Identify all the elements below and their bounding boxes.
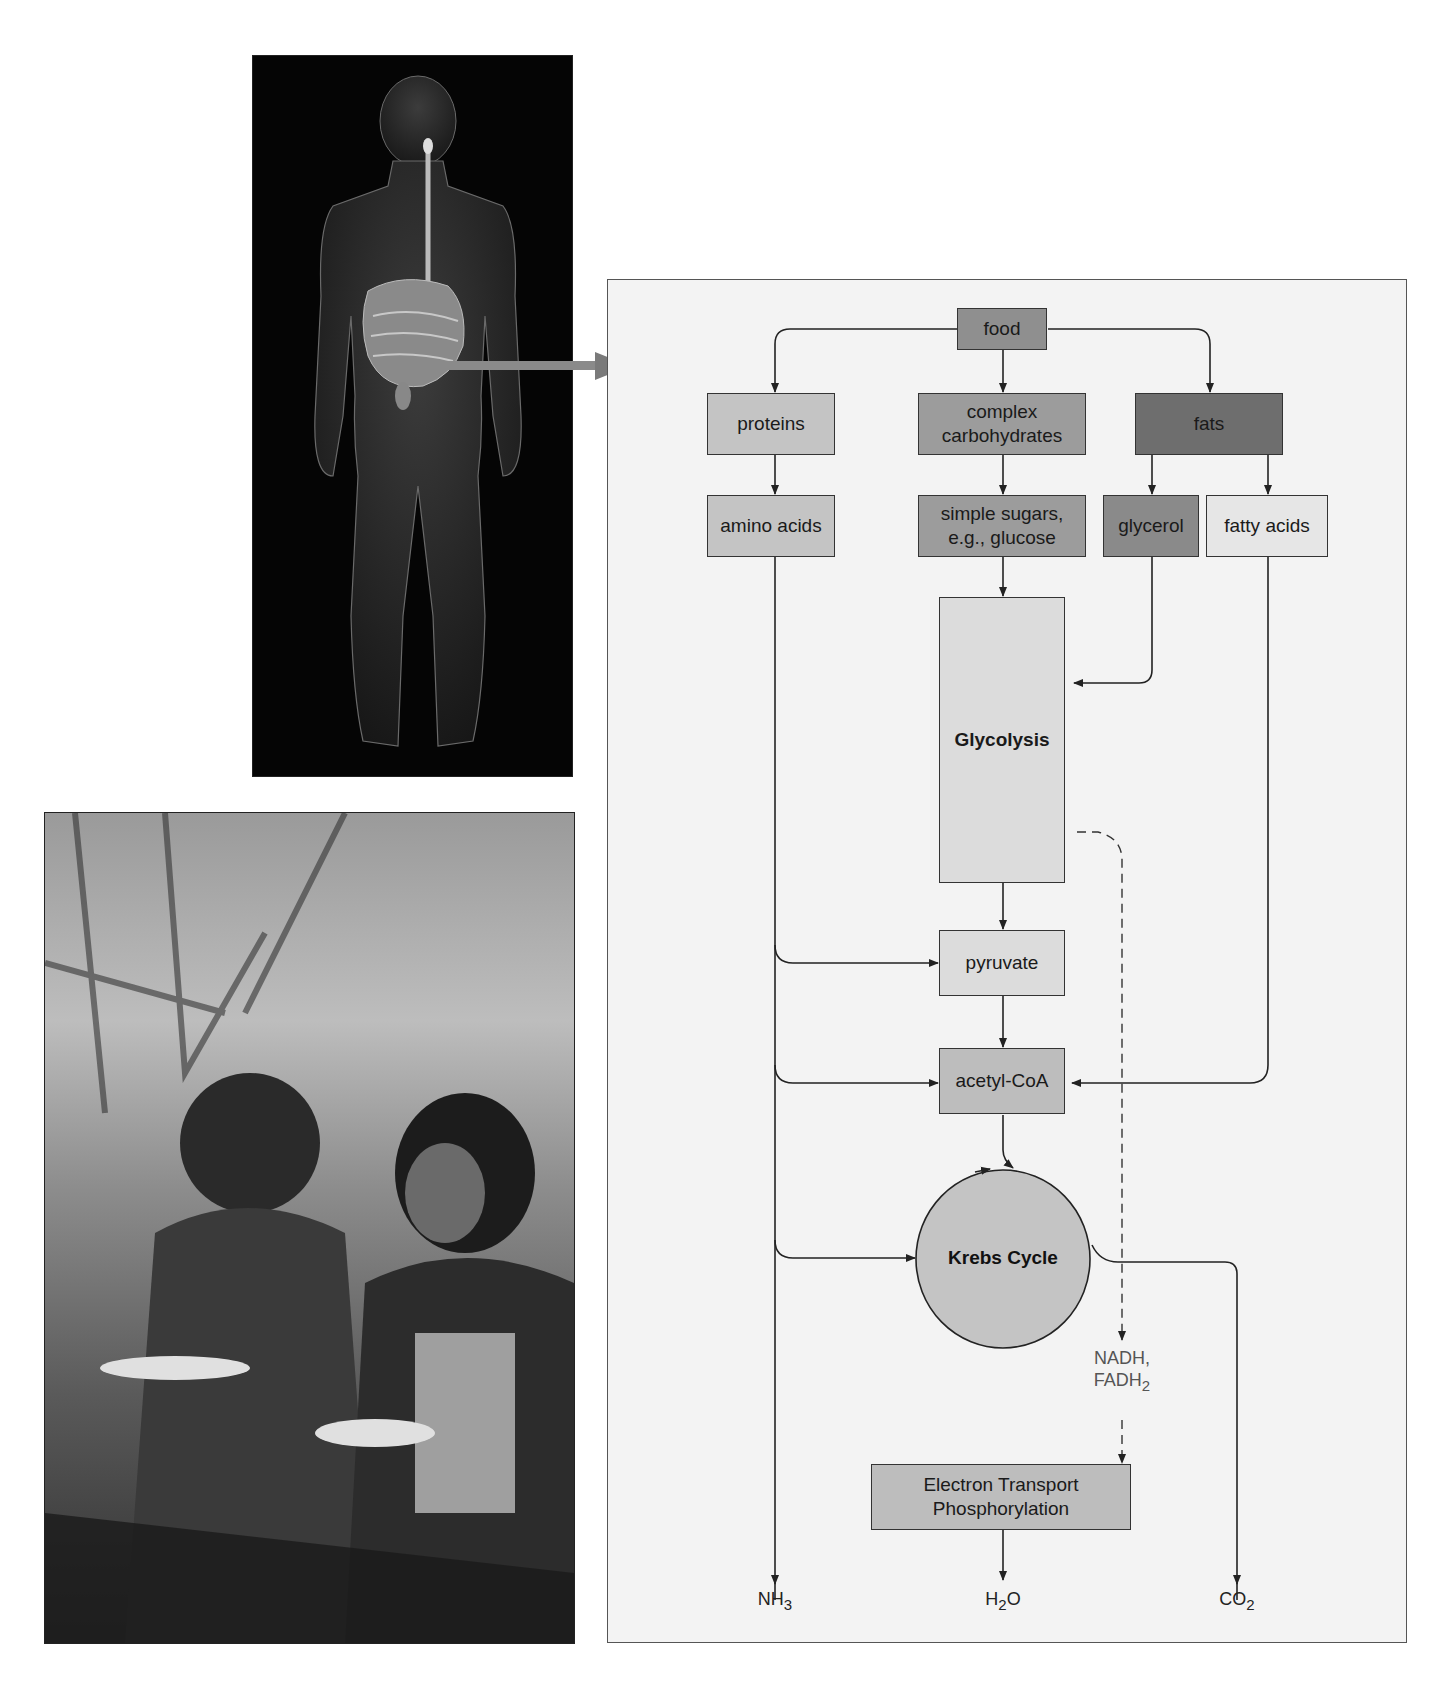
people-eating-icon <box>45 813 574 1643</box>
node-food: food <box>957 308 1047 350</box>
krebs-label-text: Krebs Cycle <box>948 1247 1058 1268</box>
krebs-cycle-label: Krebs Cycle <box>923 1247 1083 1269</box>
node-amino-acids: amino acids <box>707 495 835 557</box>
etp-label-1: Electron Transport <box>923 1473 1078 1497</box>
carriers-label: NADH, FADH2 <box>1082 1347 1162 1397</box>
node-complex-carbohydrates: complex carbohydrates <box>918 393 1086 455</box>
node-pyruvate: pyruvate <box>939 930 1065 996</box>
fatty-acids-label: fatty acids <box>1224 514 1310 538</box>
etp-label-2: Phosphorylation <box>933 1497 1069 1521</box>
complex-carbs-label-1: complex <box>967 400 1038 424</box>
pyruvate-label: pyruvate <box>966 951 1039 975</box>
co2-sub: 2 <box>1246 1596 1254 1613</box>
simple-sugars-label-2: e.g., glucose <box>948 526 1056 550</box>
nh3-base: NH <box>758 1589 784 1609</box>
node-glycolysis: Glycolysis <box>939 597 1065 883</box>
nh3-sub: 3 <box>784 1596 792 1613</box>
digestive-system-photo <box>252 55 573 777</box>
node-electron-transport: Electron Transport Phosphorylation <box>871 1464 1131 1530</box>
h2o-base: H <box>985 1589 998 1609</box>
people-eating-photo <box>44 812 575 1644</box>
glycolysis-label: Glycolysis <box>954 728 1049 752</box>
proteins-label: proteins <box>737 412 805 436</box>
co2-base: CO <box>1219 1589 1246 1609</box>
node-fats: fats <box>1135 393 1283 455</box>
acetyl-coa-label: acetyl-CoA <box>956 1069 1049 1093</box>
h2o-sub: 2 <box>998 1596 1006 1613</box>
fadh2-label: FADH2 <box>1082 1369 1162 1397</box>
human-silhouette-icon <box>253 56 572 776</box>
fadh-sub: 2 <box>1142 1377 1150 1394</box>
glycerol-label: glycerol <box>1118 514 1183 538</box>
node-glycerol: glycerol <box>1103 495 1199 557</box>
nadh-label: NADH, <box>1082 1347 1162 1369</box>
fadh-base: FADH <box>1094 1370 1142 1390</box>
product-nh3: NH3 <box>745 1588 805 1616</box>
product-h2o: H2O <box>973 1588 1033 1616</box>
node-simple-sugars: simple sugars, e.g., glucose <box>918 495 1086 557</box>
amino-acids-label: amino acids <box>720 514 821 538</box>
food-label: food <box>984 317 1021 341</box>
product-co2: CO2 <box>1207 1588 1267 1616</box>
node-proteins: proteins <box>707 393 835 455</box>
fats-label: fats <box>1194 412 1225 436</box>
simple-sugars-label-1: simple sugars, <box>941 502 1064 526</box>
complex-carbs-label-2: carbohydrates <box>942 424 1062 448</box>
h2o-tail: O <box>1007 1589 1021 1609</box>
node-fatty-acids: fatty acids <box>1206 495 1328 557</box>
node-acetyl-coa: acetyl-CoA <box>939 1048 1065 1114</box>
